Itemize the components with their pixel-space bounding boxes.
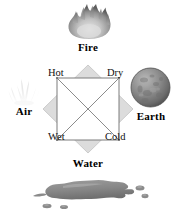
flame-icon bbox=[64, 4, 114, 40]
sphere-icon bbox=[130, 67, 171, 108]
four-elements-diagram-page: Fire Air bbox=[0, 0, 176, 211]
quality-label-wet: Wet bbox=[48, 131, 65, 142]
quality-label-dry: Dry bbox=[107, 67, 123, 78]
puddle-icon bbox=[28, 176, 150, 210]
wisp-icon bbox=[6, 72, 42, 106]
element-label-water: Water bbox=[0, 157, 176, 169]
element-label-air: Air bbox=[4, 105, 44, 117]
element-label-fire: Fire bbox=[0, 41, 176, 53]
quality-label-hot: Hot bbox=[48, 67, 64, 78]
quality-label-cold: Cold bbox=[105, 131, 125, 142]
